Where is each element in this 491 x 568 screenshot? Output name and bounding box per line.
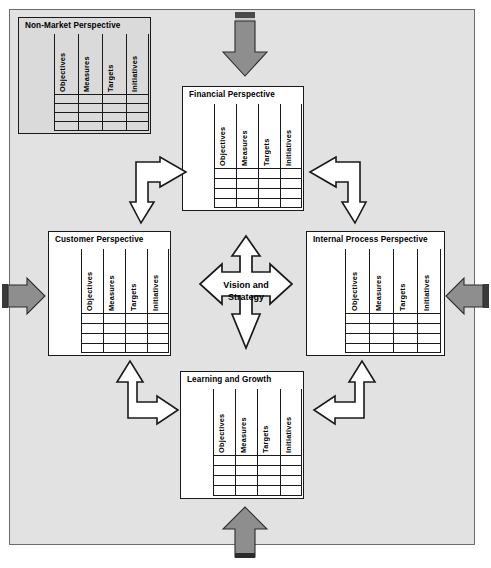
column-header-targets-customer: Targets — [129, 255, 138, 311]
vision-and-strategy-block[interactable]: Vision and Strategy — [196, 234, 296, 352]
connector-elbow-bottom-left — [114, 358, 182, 428]
scorecard-grid-financial: Objectives Measures Targets Initiatives — [214, 104, 302, 208]
scorecard-grid-non-market: Objectives Measures Targets Initiatives — [54, 34, 149, 131]
perspective-card-financial[interactable]: Financial Perspective Objectives Measure… — [182, 86, 304, 211]
perspective-title-internal-process: Internal Process Perspective — [313, 235, 428, 244]
column-header-measures-financial: Measures — [240, 110, 249, 166]
column-header-measures-customer: Measures — [107, 255, 116, 311]
perspective-card-non-market[interactable]: Non-Market Perspective Objectives Measur… — [18, 17, 151, 134]
vision-line-2: Strategy — [196, 292, 296, 304]
external-arrow-top — [222, 12, 268, 78]
scorecard-grid-learning-growth: Objectives Measures Targets Initiatives — [213, 389, 302, 496]
connector-elbow-top-left — [128, 156, 194, 226]
column-header-objectives-learning-growth: Objectives — [217, 395, 226, 453]
column-header-initiatives-customer: Initiatives — [151, 255, 160, 311]
column-header-objectives-internal-process: Objectives — [350, 255, 359, 311]
external-arrow-left — [2, 276, 46, 316]
column-header-objectives-customer: Objectives — [85, 255, 94, 311]
perspective-card-customer[interactable]: Customer Perspective Objectives Measures… — [48, 231, 171, 356]
perspective-title-customer: Customer Perspective — [55, 235, 143, 244]
connector-elbow-bottom-right — [310, 358, 378, 428]
column-header-targets-non-market: Targets — [106, 38, 115, 92]
column-header-targets-learning-growth: Targets — [261, 395, 270, 453]
column-header-initiatives-financial: Initiatives — [284, 110, 293, 166]
column-header-targets-internal-process: Targets — [398, 255, 407, 311]
vision-line-1: Vision and — [196, 280, 296, 292]
diagram-canvas: Non-Market Perspective Objectives Measur… — [0, 0, 491, 568]
column-header-measures-internal-process: Measures — [374, 255, 383, 311]
perspective-title-financial: Financial Perspective — [189, 90, 275, 99]
vision-strategy-text: Vision and Strategy — [196, 280, 296, 303]
column-header-initiatives-internal-process: Initiatives — [422, 255, 431, 311]
external-arrow-right — [445, 276, 489, 316]
scorecard-grid-customer: Objectives Measures Targets Initiatives — [81, 249, 169, 353]
perspective-title-non-market: Non-Market Perspective — [25, 21, 120, 30]
perspective-title-learning-growth: Learning and Growth — [187, 375, 271, 384]
column-header-objectives-financial: Objectives — [218, 110, 227, 166]
perspective-card-learning-growth[interactable]: Learning and Growth Objectives Measures … — [180, 371, 304, 499]
column-header-targets-financial: Targets — [262, 110, 271, 166]
column-header-initiatives-non-market: Initiatives — [130, 38, 139, 92]
column-header-objectives-non-market: Objectives — [58, 38, 67, 92]
connector-elbow-top-right — [302, 156, 368, 226]
column-header-measures-learning-growth: Measures — [239, 395, 248, 453]
perspective-card-internal-process[interactable]: Internal Process Perspective Objectives … — [306, 231, 445, 356]
external-arrow-bottom — [222, 505, 268, 563]
column-header-initiatives-learning-growth: Initiatives — [284, 395, 293, 453]
scorecard-grid-internal-process: Objectives Measures Targets Initiatives — [345, 249, 441, 353]
column-header-measures-non-market: Measures — [82, 38, 91, 92]
